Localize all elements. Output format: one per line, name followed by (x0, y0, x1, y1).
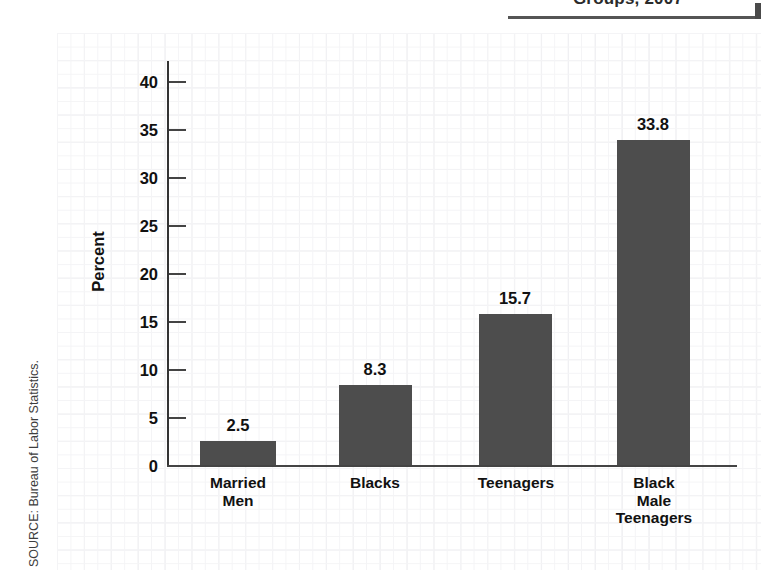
bar-chart: Percent 0 5 10 15 20 25 30 35 40 2.5 8.3… (0, 0, 781, 583)
category-label-teenagers: Teenagers (458, 474, 574, 492)
category-label-line: Blacks (325, 474, 425, 492)
bar-married-men[interactable] (200, 441, 276, 465)
y-tick-label-0: 0 (112, 457, 158, 476)
y-tick-label-10: 10 (112, 361, 158, 380)
category-label-blacks: Blacks (325, 474, 425, 492)
y-tick-label-5: 5 (112, 409, 158, 428)
bar-value-married-men: 2.5 (198, 416, 278, 435)
x-axis-line (167, 465, 737, 467)
category-label-black-male-teenagers: Black Male Teenagers (600, 474, 708, 527)
y-tick-label-40: 40 (112, 73, 158, 92)
y-tick-label-15: 15 (112, 313, 158, 332)
bar-value-teenagers: 15.7 (475, 289, 555, 308)
y-tick-mark-5 (169, 417, 186, 419)
category-label-married-men: Married Men (188, 474, 288, 509)
y-tick-label-25: 25 (112, 217, 158, 236)
y-tick-mark-35 (169, 129, 186, 131)
y-axis-title: Percent (89, 202, 108, 322)
y-tick-mark-25 (169, 225, 186, 227)
bar-value-black-male-teenagers: 33.8 (613, 115, 693, 134)
bar-black-male-teenagers[interactable] (617, 140, 690, 465)
y-tick-mark-15 (169, 321, 186, 323)
bar-blacks[interactable] (339, 385, 412, 465)
category-label-line: Black (600, 474, 708, 492)
category-label-line: Men (188, 492, 288, 510)
category-label-line: Male (600, 492, 708, 510)
y-tick-mark-20 (169, 273, 186, 275)
bar-value-blacks: 8.3 (335, 360, 415, 379)
category-label-line: Teenagers (600, 509, 708, 527)
y-tick-mark-30 (169, 177, 186, 179)
y-tick-label-20: 20 (112, 265, 158, 284)
y-tick-mark-40 (169, 81, 186, 83)
y-tick-mark-10 (169, 369, 186, 371)
category-label-line: Teenagers (458, 474, 574, 492)
bar-teenagers[interactable] (479, 314, 552, 465)
y-tick-label-30: 30 (112, 169, 158, 188)
y-tick-label-35: 35 (112, 121, 158, 140)
category-label-line: Married (188, 474, 288, 492)
y-axis-line (167, 61, 169, 467)
